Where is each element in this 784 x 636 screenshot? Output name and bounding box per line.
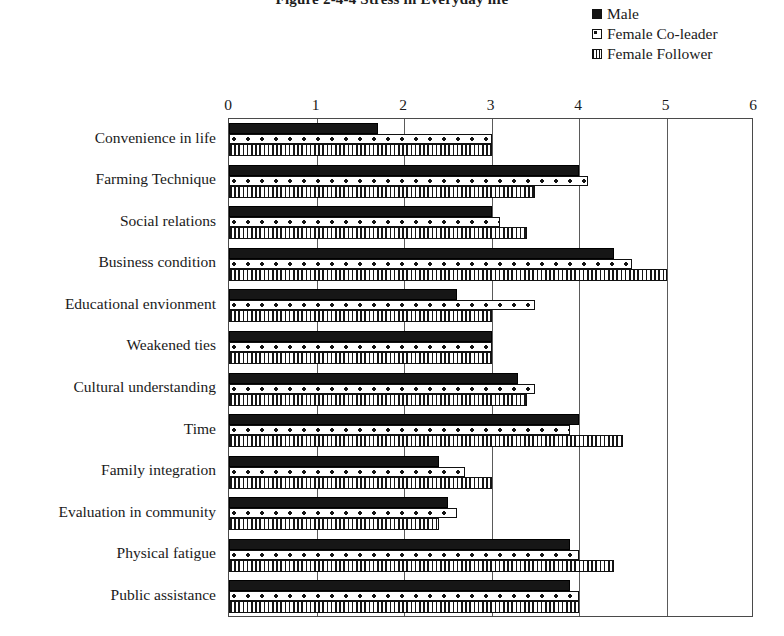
category-label: Convenience in life <box>0 129 222 147</box>
category-label: Family integration <box>0 461 222 479</box>
bar-female-coleader <box>229 425 570 435</box>
bar-male <box>229 456 439 467</box>
bar-male <box>229 331 492 342</box>
bar-groups <box>229 119 752 616</box>
bar-female-follower <box>229 560 614 572</box>
bar-female-coleader <box>229 384 535 394</box>
bar-group <box>229 327 752 369</box>
category-label: Evaluation in community <box>0 503 222 521</box>
bar-female-coleader <box>229 342 492 352</box>
category-label: Public assistance <box>0 586 222 604</box>
chart-plot-wrapper: 0123456 Convenience in lifeFarming Techn… <box>0 0 784 636</box>
plot-area <box>228 118 753 617</box>
y-axis-category-labels: Convenience in lifeFarming TechniqueSoci… <box>0 118 222 617</box>
category-label: Farming Technique <box>0 170 222 188</box>
bar-male <box>229 123 378 134</box>
bar-group <box>229 535 752 577</box>
x-tick-4: 4 <box>574 96 582 114</box>
bar-male <box>229 414 579 425</box>
bar-female-coleader <box>229 300 535 310</box>
bar-female-coleader <box>229 176 588 186</box>
category-label: Business condition <box>0 253 222 271</box>
bar-female-follower <box>229 186 535 198</box>
bar-female-follower <box>229 310 492 322</box>
bar-female-follower <box>229 352 492 364</box>
x-tick-5: 5 <box>662 96 670 114</box>
bar-female-follower <box>229 394 527 406</box>
bar-male <box>229 497 448 508</box>
x-tick-3: 3 <box>487 96 495 114</box>
bar-male <box>229 289 457 300</box>
bar-group <box>229 244 752 286</box>
bar-male <box>229 580 570 591</box>
x-tick-0: 0 <box>224 96 232 114</box>
bar-group <box>229 576 752 618</box>
bar-female-follower <box>229 477 492 489</box>
bar-female-follower <box>229 601 579 613</box>
x-axis-tick-labels: 0123456 <box>228 96 753 116</box>
category-label: Physical fatigue <box>0 544 222 562</box>
category-label: Weakened ties <box>0 336 222 354</box>
bar-female-follower <box>229 269 667 281</box>
bar-group <box>229 369 752 411</box>
bar-female-coleader <box>229 591 579 601</box>
x-tick-6: 6 <box>749 96 757 114</box>
bar-female-coleader <box>229 508 457 518</box>
category-label: Time <box>0 420 222 438</box>
x-tick-2: 2 <box>399 96 407 114</box>
category-label: Cultural understanding <box>0 378 222 396</box>
bar-female-coleader <box>229 217 500 227</box>
category-label: Educational envionment <box>0 295 222 313</box>
bar-male <box>229 539 570 550</box>
bar-female-coleader <box>229 550 579 560</box>
bar-group <box>229 161 752 203</box>
bar-male <box>229 165 579 176</box>
bar-group <box>229 410 752 452</box>
x-tick-1: 1 <box>312 96 320 114</box>
bar-group <box>229 493 752 535</box>
bar-male <box>229 373 518 384</box>
bar-male <box>229 206 492 217</box>
bar-group <box>229 119 752 161</box>
bar-group <box>229 285 752 327</box>
bar-female-follower <box>229 435 623 447</box>
bar-female-coleader <box>229 259 632 269</box>
bar-female-coleader <box>229 134 492 144</box>
bar-group <box>229 202 752 244</box>
bar-female-coleader <box>229 467 465 477</box>
bar-group <box>229 452 752 494</box>
bar-male <box>229 248 614 259</box>
bar-female-follower <box>229 227 527 239</box>
category-label: Social relations <box>0 212 222 230</box>
bar-female-follower <box>229 518 439 530</box>
bar-female-follower <box>229 144 492 156</box>
